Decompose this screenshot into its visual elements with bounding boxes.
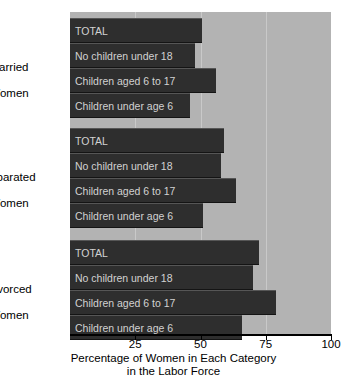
bar-label: Children under age 6 <box>75 100 173 112</box>
bar: TOTAL <box>70 128 224 153</box>
bar-label: TOTAL <box>75 135 108 147</box>
bar-label: Children aged 6 to 17 <box>75 185 175 197</box>
bar-label: Children aged 6 to 17 <box>75 297 175 309</box>
gridline-75 <box>266 12 267 334</box>
bar-label: No children under 18 <box>75 50 172 62</box>
bar: Children aged 6 to 17 <box>70 178 236 203</box>
group-label-separated-line1: Separated <box>0 171 69 184</box>
group-label-divorced-line2: Women <box>0 309 69 322</box>
group-label-married-line1: Married <box>0 61 69 74</box>
x-axis-title: Percentage of Women in Each Category in … <box>0 352 347 378</box>
tick-label-75: 75 <box>246 338 286 351</box>
bar-label: Children aged 6 to 17 <box>75 75 175 87</box>
group-label-married-line2: Women <box>0 87 69 100</box>
bar: Children under age 6 <box>70 203 203 228</box>
bar: Children aged 6 to 17 <box>70 68 216 93</box>
group-label-divorced-line1: Divorced <box>0 283 69 296</box>
tick-label-50: 50 <box>181 338 221 351</box>
tick-label-100: 100 <box>311 338 347 351</box>
group-label-divorced: Divorced Women <box>0 270 69 335</box>
group-label-separated: Separated Women <box>0 158 69 223</box>
bar: No children under 18 <box>70 265 253 290</box>
bar-label: No children under 18 <box>75 272 172 284</box>
bar: No children under 18 <box>70 153 221 178</box>
tick-label-25: 25 <box>115 338 155 351</box>
x-axis-title-line2: in the Labor Force <box>0 365 347 378</box>
bar: Children under age 6 <box>70 315 242 340</box>
x-axis-title-line1: Percentage of Women in Each Category <box>0 352 347 365</box>
bar: TOTAL <box>70 240 259 265</box>
bar-label: TOTAL <box>75 247 108 259</box>
bar: TOTAL <box>70 18 202 43</box>
bar: Children under age 6 <box>70 93 190 118</box>
plot-area: TOTALNo children under 18Children aged 6… <box>70 12 331 334</box>
bar-label: TOTAL <box>75 25 108 37</box>
group-label-separated-line2: Women <box>0 197 69 210</box>
bar: No children under 18 <box>70 43 195 68</box>
bar-label: Children under age 6 <box>75 322 173 334</box>
bar-label: Children under age 6 <box>75 210 173 222</box>
group-label-married: Married Women <box>0 48 69 113</box>
bar: Children aged 6 to 17 <box>70 290 276 315</box>
bar-chart: Married Women Separated Women Divorced W… <box>0 0 347 381</box>
bar-label: No children under 18 <box>75 160 172 172</box>
